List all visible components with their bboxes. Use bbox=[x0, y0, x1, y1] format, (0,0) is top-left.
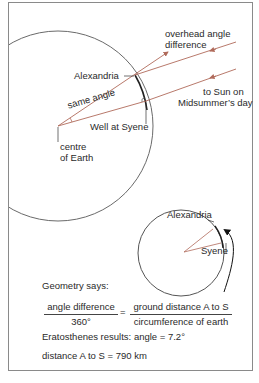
label-well-at-syene: Well at Syene bbox=[90, 121, 148, 132]
label-alexandria: Alexandria bbox=[74, 70, 119, 81]
label-small-alexandria: Alexandria bbox=[167, 209, 212, 220]
rays bbox=[58, 42, 236, 126]
formula-right-numerator: ground distance A to S bbox=[130, 301, 232, 315]
result-angle: Eratosthenes results: angle = 7.2° bbox=[42, 331, 185, 343]
label-centre: centre bbox=[60, 141, 86, 152]
formula-right-fraction: ground distance A to S circumference of … bbox=[130, 301, 232, 328]
formula-left-denominator: 360° bbox=[44, 315, 118, 328]
label-to-sun: to Sun on bbox=[203, 86, 244, 97]
label-small-syene: Syene bbox=[201, 245, 228, 256]
label-centre-2: of Earth bbox=[60, 152, 93, 163]
formula-left-numerator: angle difference bbox=[44, 301, 118, 315]
pointer-arrow-icon bbox=[224, 230, 233, 292]
formula-heading: Geometry says: bbox=[42, 280, 109, 292]
angle-arc-icon bbox=[70, 118, 72, 122]
result-distance: distance A to S = 790 km bbox=[42, 350, 147, 362]
formula-right-denominator: circumference of earth bbox=[130, 315, 232, 328]
formula-equals: = bbox=[120, 306, 126, 317]
formula-left-fraction: angle difference 360° bbox=[44, 301, 118, 328]
label-overhead-angle-2: difference bbox=[165, 39, 207, 50]
label-to-sun-2: Midsummer’s day bbox=[178, 97, 253, 108]
label-overhead-angle: overhead angle bbox=[165, 28, 231, 39]
